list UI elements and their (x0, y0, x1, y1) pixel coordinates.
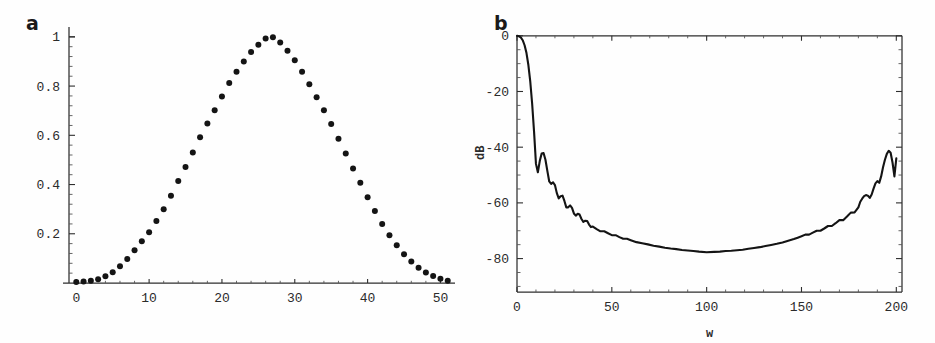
panel-a-data-point (357, 180, 363, 186)
panel-a-data-point (241, 58, 247, 64)
panel-a-data-point (306, 81, 312, 87)
panel-a-data-point (212, 107, 218, 113)
panel-a-data-point (372, 208, 378, 214)
panel-a-data-point (321, 107, 327, 113)
panel-a-ytick-label: 1 (52, 30, 60, 45)
figure-container: a 0.20.40.60.8101020304050 b 0-20-40-60-… (0, 0, 935, 343)
panel-a-data-point (277, 40, 283, 46)
panel-b-ytick-label: -20 (486, 85, 509, 100)
panel-a-data-point (401, 251, 407, 257)
panel-b-response-curve (517, 36, 896, 252)
panel-a-ytick-label: 0.6 (37, 129, 60, 144)
panel-a-data-point (263, 36, 269, 42)
panel-a-data-point (445, 278, 451, 284)
panel-a-data-point (350, 166, 356, 172)
panel-a-data-point (437, 276, 443, 282)
panel-a-data-point (292, 57, 298, 63)
panel-a-data-point (394, 242, 400, 248)
panel-a-data-point (132, 247, 138, 253)
panel-a-data-point (117, 263, 123, 269)
panel-a-data-point (423, 269, 429, 275)
panel-a-xtick-label: 20 (214, 291, 230, 306)
panel-a-data-point (161, 206, 167, 212)
panel-a-data-point (73, 279, 79, 285)
panel-a-data-point (197, 134, 203, 140)
panel-a: a 0.20.40.60.8101020304050 (0, 0, 468, 343)
panel-a-data-point (146, 229, 152, 235)
panel-a-xtick-label: 40 (360, 291, 376, 306)
panel-a-data-point (248, 49, 254, 55)
panel-a-data-point (314, 94, 320, 100)
panel-a-plot: 0.20.40.60.8101020304050 (0, 0, 468, 343)
panel-b-xtick-label: 200 (885, 300, 908, 315)
panel-a-data-point (153, 218, 159, 224)
panel-a-data-point (270, 34, 276, 40)
panel-b-xtick-label: 50 (604, 300, 620, 315)
panel-a-data-point (335, 136, 341, 142)
panel-a-ytick-label: 0.2 (37, 227, 60, 242)
panel-a-data-point (430, 273, 436, 279)
panel-b-plot: 0-20-40-60-80050100150200wdB (468, 0, 935, 343)
panel-b-ytick-label: -60 (486, 196, 509, 211)
panel-a-data-point (328, 121, 334, 127)
panel-a-data-point (255, 42, 261, 48)
panel-a-data-point (284, 48, 290, 54)
panel-a-data-point (416, 265, 422, 271)
panel-a-data-point (168, 193, 174, 199)
panel-a-data-point (110, 269, 116, 275)
panel-a-xtick-label: 0 (72, 291, 80, 306)
panel-a-ytick-label: 0.4 (37, 178, 61, 193)
panel-a-xtick-label: 30 (287, 291, 303, 306)
panel-b-xtick-label: 100 (695, 300, 718, 315)
panel-a-data-point (226, 80, 232, 86)
panel-a-data-point (124, 256, 130, 262)
panel-b-yaxis-title: dB (474, 146, 488, 160)
panel-a-data-point (204, 120, 210, 126)
panel-b: b 0-20-40-60-80050100150200wdB (468, 0, 935, 343)
panel-b-ytick-label: -40 (486, 141, 509, 156)
panel-a-data-point (81, 279, 87, 285)
panel-a-ytick-label: 0.8 (37, 80, 60, 95)
panel-a-data-point (183, 164, 189, 170)
panel-a-data-point (190, 150, 196, 156)
panel-a-data-point (88, 278, 94, 284)
panel-a-data-point (139, 238, 145, 244)
panel-a-data-point (386, 232, 392, 238)
panel-a-data-point (379, 221, 385, 227)
panel-a-data-series (73, 34, 450, 285)
panel-a-data-point (299, 69, 305, 75)
panel-b-xtick-label: 150 (790, 300, 813, 315)
panel-b-ytick-label: 0 (501, 29, 509, 44)
panel-a-data-point (365, 194, 371, 200)
panel-b-ytick-label: -80 (486, 252, 509, 267)
panel-a-data-point (234, 69, 240, 75)
panel-a-data-point (175, 178, 181, 184)
panel-a-data-point (408, 259, 414, 265)
panel-a-data-point (343, 151, 349, 157)
panel-b-xtick-label: 0 (513, 300, 521, 315)
panel-a-xtick-label: 10 (141, 291, 157, 306)
panel-a-data-point (219, 93, 225, 99)
panel-a-data-point (95, 276, 101, 282)
panel-a-xtick-label: 50 (433, 291, 449, 306)
panel-b-xaxis-title: w (706, 327, 714, 341)
panel-a-data-point (102, 273, 108, 279)
